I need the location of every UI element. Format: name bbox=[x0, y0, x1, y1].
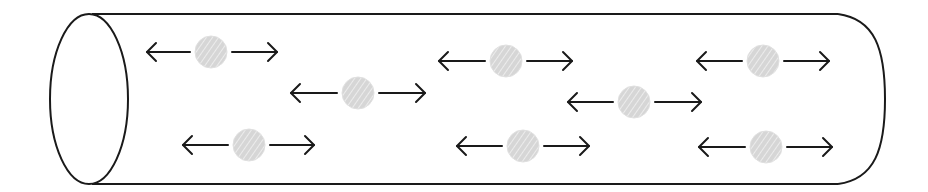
particle-circle-icon bbox=[195, 36, 227, 68]
tube-diagram bbox=[0, 0, 928, 192]
right-arrow-icon bbox=[544, 137, 589, 155]
left-arrow-icon bbox=[697, 52, 742, 70]
left-arrow-icon bbox=[457, 137, 502, 155]
particle-5 bbox=[697, 45, 829, 77]
left-arrow-icon bbox=[439, 52, 485, 70]
particles-group bbox=[147, 36, 832, 163]
cylinder-opening-ellipse bbox=[50, 14, 128, 184]
particle-circle-icon bbox=[233, 129, 265, 161]
right-arrow-icon bbox=[270, 136, 314, 154]
left-arrow-icon bbox=[183, 136, 228, 154]
particle-3 bbox=[439, 45, 572, 77]
particle-circle-icon bbox=[618, 86, 650, 118]
particle-6 bbox=[183, 129, 314, 161]
particle-circle-icon bbox=[747, 45, 779, 77]
cylinder-right-cap bbox=[838, 14, 885, 184]
right-arrow-icon bbox=[784, 52, 829, 70]
left-arrow-icon bbox=[291, 84, 337, 102]
right-arrow-icon bbox=[787, 138, 832, 156]
particle-circle-icon bbox=[750, 131, 782, 163]
right-arrow-icon bbox=[379, 84, 425, 102]
particle-1 bbox=[147, 36, 277, 68]
right-arrow-icon bbox=[232, 43, 277, 61]
left-arrow-icon bbox=[147, 43, 190, 61]
left-arrow-icon bbox=[568, 93, 613, 111]
particle-7 bbox=[457, 130, 589, 162]
particle-circle-icon bbox=[342, 77, 374, 109]
particle-2 bbox=[291, 77, 425, 109]
right-arrow-icon bbox=[527, 52, 572, 70]
particle-circle-icon bbox=[490, 45, 522, 77]
diagram-canvas bbox=[0, 0, 928, 192]
particle-circle-icon bbox=[507, 130, 539, 162]
left-arrow-icon bbox=[699, 138, 745, 156]
particle-8 bbox=[699, 131, 832, 163]
right-arrow-icon bbox=[655, 93, 701, 111]
particle-4 bbox=[568, 86, 701, 118]
